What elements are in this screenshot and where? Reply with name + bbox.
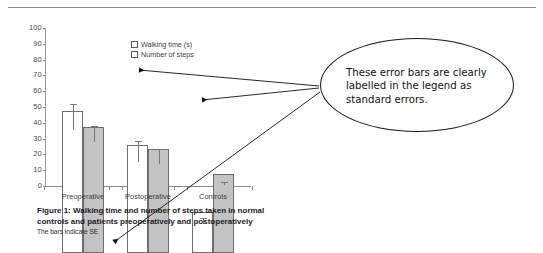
error-bar (94, 126, 95, 142)
error-bar (159, 149, 160, 164)
y-axis-tick-label: 90 (20, 40, 42, 48)
error-bar-cap (70, 104, 77, 105)
x-axis-tick-mark (109, 186, 110, 190)
y-axis-tick-label: 10 (20, 166, 42, 174)
y-axis-tick-mark (43, 123, 46, 124)
error-bar-cap (91, 126, 98, 127)
page-canvas: 0102030405060708090100 PreoperativePosto… (0, 0, 543, 253)
x-axis-tick-mark (122, 186, 123, 190)
y-axis-tick-label: 30 (20, 135, 42, 143)
y-axis-tick-mark (43, 139, 46, 140)
y-axis-tick-labels: 0102030405060708090100 (18, 18, 42, 204)
callout-text: These error bars are clearly labelled in… (346, 66, 492, 106)
legend-item-walking-time: Walking time (s) (131, 40, 194, 50)
error-bar (73, 104, 74, 130)
y-axis-tick-label: 100 (20, 24, 42, 32)
legend-label: Number of steps (141, 50, 194, 60)
chart-legend: Walking time (s) Number of steps (131, 40, 194, 59)
x-axis-category-label: Controls (173, 192, 253, 201)
y-axis-tick-label: 40 (20, 119, 42, 127)
x-axis-tick-mark (187, 186, 188, 190)
y-axis-tick-mark (43, 91, 46, 92)
figure-caption-main: Figure 1: Walking time and number of ste… (37, 206, 272, 227)
figure-caption: Figure 1: Walking time and number of ste… (37, 206, 272, 236)
y-axis-tick-mark (43, 154, 46, 155)
y-axis-tick-label: 20 (20, 150, 42, 158)
x-axis-tick-mark (44, 186, 45, 190)
top-divider-rule (8, 7, 536, 8)
error-bar-cap (156, 149, 163, 150)
y-axis-tick-label: 60 (20, 87, 42, 95)
y-axis-tick-mark (43, 75, 46, 76)
y-axis-tick-mark (43, 107, 46, 108)
y-axis-tick-mark (43, 170, 46, 171)
figure-caption-sub: The bars indicate SE (37, 228, 272, 236)
y-axis-tick-mark (43, 28, 46, 29)
annotation-callout: These error bars are clearly labelled in… (320, 38, 514, 132)
x-axis-tick-mark (252, 186, 253, 190)
error-bar-cap (135, 141, 142, 142)
y-axis-tick-mark (43, 44, 46, 45)
y-axis-tick-mark (43, 60, 46, 61)
y-axis-tick-label: 80 (20, 56, 42, 64)
y-axis-tick-label: 0 (20, 182, 42, 190)
error-bar (138, 141, 139, 162)
x-axis-tick-mark (174, 186, 175, 190)
legend-swatch-icon (131, 51, 138, 58)
legend-label: Walking time (s) (141, 40, 192, 50)
y-axis-tick-label: 70 (20, 71, 42, 79)
bar-chart-figure: 0102030405060708090100 PreoperativePosto… (0, 18, 290, 253)
error-bar-cap (221, 182, 228, 183)
legend-item-number-of-steps: Number of steps (131, 50, 194, 60)
legend-swatch-icon (131, 41, 138, 48)
y-axis-tick-label: 50 (20, 103, 42, 111)
